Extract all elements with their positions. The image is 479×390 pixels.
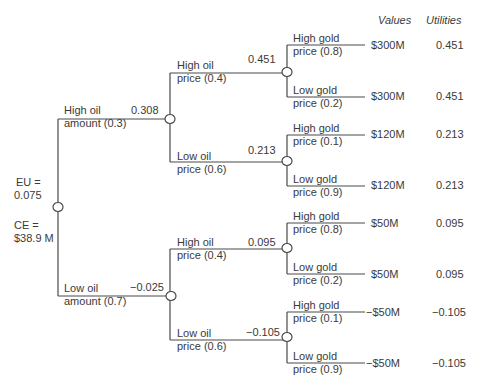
outcome-value: $300M (371, 39, 405, 52)
outcome-utility: 0.451 (436, 39, 464, 52)
branch-eu: 0.308 (131, 104, 159, 117)
outcome-value: $50M (371, 217, 399, 230)
outcome-value: −$50M (366, 357, 400, 370)
branch-label: Low oil (177, 150, 211, 163)
branch-prob: price (0.6) (177, 163, 227, 176)
utilities-header: Utilities (426, 14, 461, 27)
branch-label: High oil (64, 104, 101, 117)
chance-node-high-oil-amount (165, 115, 175, 124)
branch-prob: price (0.1) (293, 312, 343, 325)
branch-label: High oil (177, 59, 214, 72)
chance-node-gold-2 (282, 157, 292, 166)
branch-prob: price (0.9) (293, 186, 343, 199)
branch-eu: 0.095 (248, 236, 276, 249)
branch-eu: 0.213 (248, 144, 276, 157)
decision-tree-lines (0, 0, 479, 390)
branch-eu: −0.025 (130, 281, 164, 294)
outcome-utility: 0.095 (436, 268, 464, 281)
chance-node-gold-1 (282, 68, 292, 77)
branch-prob: price (0.6) (177, 340, 227, 353)
branch-label: Low gold (293, 84, 337, 97)
branch-prob: amount (0.7) (64, 295, 126, 308)
root-eu-value: 0.075 (14, 189, 42, 202)
branch-prob: price (0.4) (177, 72, 227, 85)
branch-prob: price (0.8) (293, 45, 343, 58)
branch-label: Low gold (293, 261, 337, 274)
branch-prob: price (0.2) (293, 274, 343, 287)
branch-prob: price (0.8) (293, 223, 343, 236)
outcome-utility: −0.105 (432, 357, 466, 370)
branch-prob: price (0.9) (293, 363, 343, 376)
branch-prob: price (0.2) (293, 97, 343, 110)
outcome-value: $50M (371, 268, 399, 281)
branch-eu: −0.105 (246, 326, 280, 339)
outcome-value: $120M (371, 128, 405, 141)
branch-label: High gold (293, 210, 339, 223)
outcome-utility: −0.105 (432, 306, 466, 319)
branch-label: Low gold (293, 350, 337, 363)
branch-prob: price (0.1) (293, 135, 343, 148)
values-header: Values (378, 14, 411, 27)
branch-label: Low oil (64, 282, 98, 295)
branch-label: High gold (293, 122, 339, 135)
branch-prob: amount (0.3) (64, 117, 126, 130)
branch-eu: 0.451 (248, 53, 276, 66)
chance-node-low-oil-amount (166, 292, 176, 301)
root-ce-label: CE = (14, 219, 39, 232)
outcome-value: −$50M (366, 306, 400, 319)
root-ce-value: $38.9 M (14, 232, 54, 245)
outcome-value: $120M (371, 179, 405, 192)
branch-label: High gold (293, 32, 339, 45)
branch-label: High gold (293, 299, 339, 312)
outcome-value: $300M (371, 90, 405, 103)
outcome-utility: 0.451 (436, 90, 464, 103)
branch-label: High oil (177, 236, 214, 249)
outcome-utility: 0.213 (436, 179, 464, 192)
chance-node-gold-4 (282, 333, 292, 342)
chance-node-root (53, 203, 63, 212)
branch-prob: price (0.4) (177, 249, 227, 262)
outcome-utility: 0.213 (436, 128, 464, 141)
root-eu-label: EU = (16, 176, 41, 189)
chance-node-gold-3 (282, 244, 292, 253)
outcome-utility: 0.095 (436, 217, 464, 230)
branch-label: Low oil (177, 327, 211, 340)
branch-label: Low gold (293, 173, 337, 186)
